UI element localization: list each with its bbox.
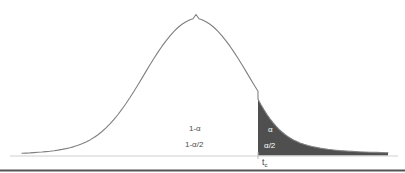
critical-value-axis-label: tc (262, 158, 267, 167)
significance-level-two-tail-label: α/2 (264, 142, 275, 150)
confidence-level-label: 1-α (189, 125, 201, 133)
t-distribution-curve (22, 15, 388, 154)
statistics-figure: 1-α 1-α/2 α α/2 tc (0, 0, 405, 173)
critical-value-subscript: c (264, 162, 267, 168)
confidence-level-two-tail-label: 1-α/2 (185, 141, 203, 149)
significance-level-label: α (268, 126, 273, 134)
